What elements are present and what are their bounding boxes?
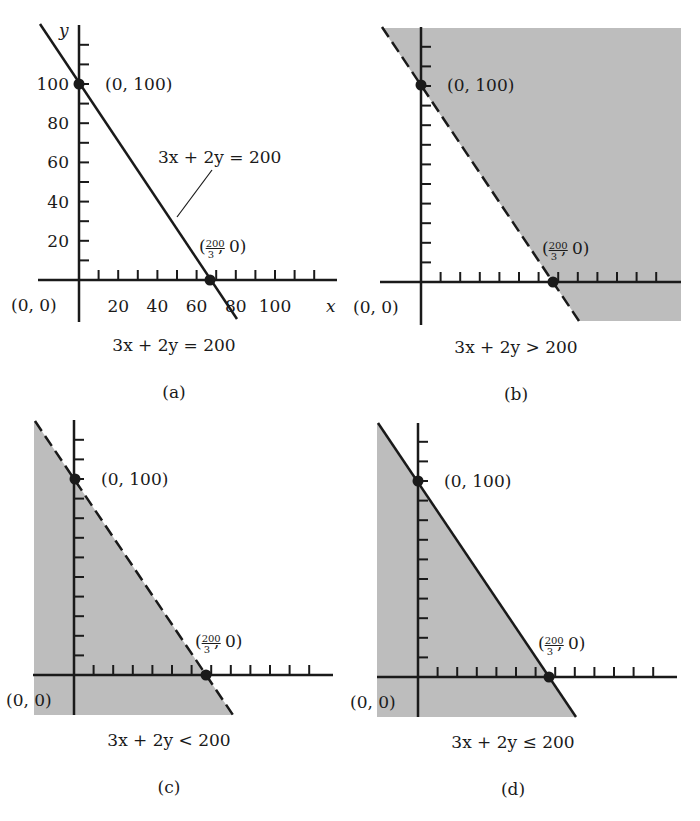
point-y-intercept — [70, 474, 81, 485]
point-x-intercept — [205, 275, 216, 286]
label-x-intercept: (2003, 0) — [538, 633, 585, 657]
panel-a: (0, 100)(2003, 0)(0, 0)yx100806040202040… — [11, 20, 337, 402]
y-tick-label: 60 — [47, 152, 69, 172]
label-y-intercept: (0, 100) — [105, 74, 172, 94]
paren-close: , 0) — [557, 633, 585, 653]
panel-caption: 3x + 2y < 200 — [107, 730, 230, 750]
panel-c: (0, 100)(2003, 0)(0, 0)3x + 2y < 200(c) — [6, 420, 333, 797]
x-tick-label: 40 — [147, 296, 169, 316]
label-x-intercept: (2003, 0) — [195, 631, 242, 655]
frac-denominator: 3 — [551, 251, 557, 262]
label-origin: (0, 0) — [350, 692, 396, 712]
label-origin: (0, 0) — [6, 690, 52, 710]
paren-open: ( — [542, 238, 549, 258]
frac-denominator: 3 — [204, 644, 210, 655]
y-axis-label: y — [58, 20, 69, 40]
inequality-figure: (0, 100)(2003, 0)(0, 0)yx100806040202040… — [0, 0, 700, 821]
panel-tag: (a) — [162, 382, 185, 402]
point-x-intercept — [544, 672, 555, 683]
point-y-intercept — [416, 80, 427, 91]
paren-close: , 0) — [218, 236, 246, 256]
point-x-intercept — [548, 277, 559, 288]
panel-caption: 3x + 2y ≤ 200 — [451, 732, 574, 752]
panel-caption: 3x + 2y > 200 — [454, 337, 577, 357]
panel-caption: 3x + 2y = 200 — [112, 335, 235, 355]
frac-denominator: 3 — [547, 646, 553, 657]
paren-open: ( — [538, 633, 545, 653]
x-tick-label: 100 — [259, 296, 291, 316]
label-x-intercept: (2003, 0) — [199, 236, 246, 260]
annotation-leader — [177, 170, 212, 217]
x-tick-label: 20 — [107, 296, 129, 316]
panel-tag: (c) — [158, 777, 181, 797]
paren-open: ( — [199, 236, 206, 256]
panel-tag: (d) — [501, 779, 525, 799]
x-tick-label: 60 — [186, 296, 208, 316]
label-origin: (0, 0) — [11, 295, 57, 315]
y-tick-label: 40 — [47, 192, 69, 212]
paren-close: , 0) — [214, 631, 242, 651]
point-y-intercept — [74, 79, 85, 90]
paren-close: , 0) — [561, 238, 589, 258]
y-tick-label: 80 — [47, 113, 69, 133]
y-tick-label: 100 — [37, 74, 69, 94]
panel-tag: (b) — [504, 384, 528, 404]
label-y-intercept: (0, 100) — [101, 469, 168, 489]
label-y-intercept: (0, 100) — [447, 75, 514, 95]
label-origin: (0, 0) — [353, 297, 399, 317]
label-y-intercept: (0, 100) — [444, 471, 511, 491]
frac-denominator: 3 — [208, 249, 214, 260]
point-y-intercept — [413, 476, 424, 487]
y-tick-label: 20 — [47, 231, 69, 251]
line-annotation: 3x + 2y = 200 — [158, 147, 281, 167]
paren-open: ( — [195, 631, 202, 651]
x-axis-label: x — [326, 296, 336, 316]
panel-d: (0, 100)(2003, 0)(0, 0)3x + 2y ≤ 200(d) — [350, 423, 677, 799]
point-x-intercept — [201, 670, 212, 681]
panel-b: (0, 100)(2003, 0)(0, 0)3x + 2y > 200(b) — [353, 27, 681, 404]
x-tick-label: 80 — [225, 296, 247, 316]
